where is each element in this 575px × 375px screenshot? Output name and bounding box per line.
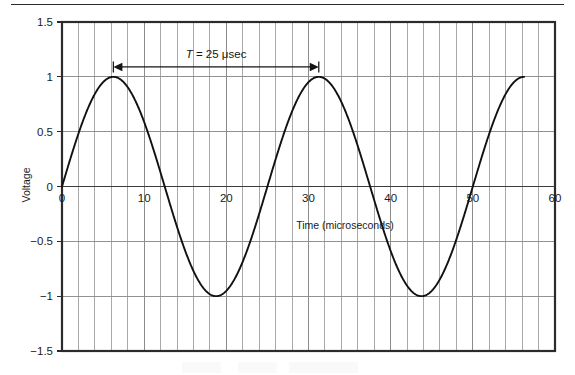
y-axis-tick-label: −1.5 [30, 345, 53, 357]
y-axis-tick-label: −1 [40, 290, 53, 302]
x-axis-tick-label: 30 [302, 192, 315, 204]
voltage-vs-time-chart: 1.510.50−0.5−1−1.5 0102030405060 T = 25 … [0, 0, 575, 375]
x-axis-tick-label: 40 [384, 192, 397, 204]
y-axis-tick-label: 1 [47, 71, 53, 83]
x-axis-tick-label: 60 [549, 192, 562, 204]
y-axis-tick-labels: 1.510.50−0.5−1−1.5 [30, 16, 53, 357]
y-axis-tick-label: −0.5 [30, 235, 53, 247]
x-axis-title: Time (microseconds) [296, 219, 394, 231]
x-axis-tick-label: 20 [220, 192, 233, 204]
period-value: = 25 μsec [193, 48, 247, 60]
x-axis-tick-label: 0 [59, 192, 65, 204]
y-axis-tick-label: 1.5 [37, 16, 53, 28]
period-annotation-label: T = 25 μsec [186, 48, 247, 60]
x-axis-tick-label: 10 [138, 192, 151, 204]
y-axis-tick-label: 0.5 [37, 126, 53, 138]
y-axis-tick-label: 0 [47, 181, 53, 193]
figure-container: 1.510.50−0.5−1−1.5 0102030405060 T = 25 … [0, 0, 575, 375]
y-axis-title: Voltage [20, 167, 32, 202]
page-footer-smudge [182, 362, 397, 373]
